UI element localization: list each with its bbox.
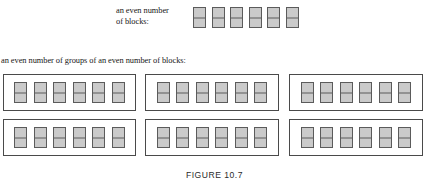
block-glyph: [340, 82, 353, 103]
block-glyph: [157, 82, 170, 103]
block-fill: [361, 84, 370, 101]
block-fill: [214, 9, 223, 26]
block-fill: [36, 84, 45, 101]
block-fill: [16, 129, 25, 146]
even-number-of-blocks-section: an even number of blocks:: [0, 0, 429, 45]
group-box: [3, 119, 136, 156]
block-fill: [322, 84, 331, 101]
block-fill: [251, 9, 260, 26]
block-fill: [400, 129, 409, 146]
block-fill: [381, 129, 390, 146]
figure-page: an even number of blocks: an even number…: [0, 0, 429, 180]
block-glyph: [196, 82, 209, 103]
block-fill: [75, 129, 84, 146]
block-fill: [94, 129, 103, 146]
block-glyph: [249, 7, 262, 28]
block-glyph: [235, 127, 248, 148]
block-glyph: [92, 127, 105, 148]
block-fill: [322, 129, 331, 146]
block-glyph: [176, 82, 189, 103]
block-glyph: [215, 82, 228, 103]
block-fill: [256, 129, 265, 146]
block-glyph: [398, 127, 411, 148]
block-glyph: [340, 127, 353, 148]
block-glyph: [320, 127, 333, 148]
block-glyph: [359, 82, 372, 103]
block-glyph: [379, 82, 392, 103]
block-fill: [217, 84, 226, 101]
block-fill: [381, 84, 390, 101]
block-glyph: [212, 7, 225, 28]
group-row: [0, 119, 429, 157]
group-box: [145, 119, 279, 156]
block-fill: [178, 84, 187, 101]
block-fill: [16, 84, 25, 101]
block-fill: [303, 84, 312, 101]
block-fill: [75, 84, 84, 101]
even-groups-caption: an even number of groups of an even numb…: [1, 56, 186, 66]
block-glyph: [14, 127, 27, 148]
block-fill: [361, 129, 370, 146]
block-glyph: [215, 127, 228, 148]
block-fill: [178, 129, 187, 146]
block-glyph: [254, 82, 267, 103]
block-glyph: [53, 82, 66, 103]
block-fill: [288, 9, 297, 26]
block-glyph: [267, 7, 280, 28]
block-fill: [269, 9, 278, 26]
block-glyph: [34, 82, 47, 103]
block-fill: [198, 129, 207, 146]
block-fill: [217, 129, 226, 146]
block-glyph: [301, 127, 314, 148]
block-glyph: [230, 7, 243, 28]
block-glyph: [254, 127, 267, 148]
group-box: [3, 74, 136, 111]
block-glyph: [286, 7, 299, 28]
block-fill: [237, 84, 246, 101]
block-glyph: [379, 127, 392, 148]
block-fill: [36, 129, 45, 146]
group-box: [289, 119, 423, 156]
even-number-of-blocks-label: an even number of blocks:: [116, 6, 194, 27]
block-fill: [55, 84, 64, 101]
block-glyph: [14, 82, 27, 103]
figure-number-caption: FIGURE 10.7: [0, 170, 429, 180]
block-glyph: [73, 82, 86, 103]
groups-area: [0, 72, 429, 160]
block-fill: [232, 9, 241, 26]
block-fill: [94, 84, 103, 101]
block-glyph: [193, 7, 206, 28]
block-glyph: [157, 127, 170, 148]
group-box: [289, 74, 423, 111]
block-glyph: [73, 127, 86, 148]
block-fill: [198, 84, 207, 101]
block-glyph: [92, 82, 105, 103]
block-glyph: [235, 82, 248, 103]
block-glyph: [398, 82, 411, 103]
group-row: [0, 74, 429, 112]
block-glyph: [112, 127, 125, 148]
block-fill: [400, 84, 409, 101]
block-fill: [55, 129, 64, 146]
block-fill: [342, 129, 351, 146]
block-glyph: [301, 82, 314, 103]
block-fill: [195, 9, 204, 26]
block-fill: [237, 129, 246, 146]
block-fill: [114, 84, 123, 101]
top-block-row: [193, 7, 299, 28]
block-glyph: [34, 127, 47, 148]
block-glyph: [176, 127, 189, 148]
block-glyph: [320, 82, 333, 103]
block-fill: [256, 84, 265, 101]
block-fill: [159, 129, 168, 146]
block-glyph: [196, 127, 209, 148]
block-fill: [342, 84, 351, 101]
block-fill: [114, 129, 123, 146]
group-box: [145, 74, 279, 111]
block-glyph: [112, 82, 125, 103]
block-glyph: [53, 127, 66, 148]
block-glyph: [359, 127, 372, 148]
block-fill: [159, 84, 168, 101]
block-fill: [303, 129, 312, 146]
